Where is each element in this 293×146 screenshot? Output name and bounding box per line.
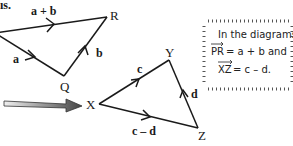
label-a-plus-b: a + b xyxy=(31,4,57,18)
note-vec-xz: XZ xyxy=(218,64,232,75)
vertex-q: Q xyxy=(60,79,70,94)
triangle-pqr xyxy=(0,17,107,76)
triangle-xyz xyxy=(99,60,198,128)
label-a: a xyxy=(13,52,19,66)
vertex-y: Y xyxy=(165,45,175,60)
note-vec-pr: PR xyxy=(211,46,224,57)
note-box: In the diagrams, PR = a + b and XZ = c –… xyxy=(204,21,293,89)
vertex-z: Z xyxy=(198,128,206,143)
label-b: b xyxy=(96,46,103,60)
note-line-3: = c – d. xyxy=(233,64,271,75)
note-line-2: = a + b and xyxy=(226,46,287,57)
header-fragment: ıs. xyxy=(0,0,11,12)
note-line-1: In the diagrams, xyxy=(218,29,293,40)
vertex-x: X xyxy=(86,97,96,112)
label-c: c xyxy=(137,62,143,76)
vector-diagram: ıs. a + b a b R Q c d c – d X Y Z xyxy=(0,0,293,146)
vertex-r: R xyxy=(110,8,119,23)
label-d: d xyxy=(191,87,198,101)
edge-xy xyxy=(99,60,169,104)
label-c-minus-d: c – d xyxy=(132,124,156,138)
pointer-arrow-icon xyxy=(4,99,82,112)
